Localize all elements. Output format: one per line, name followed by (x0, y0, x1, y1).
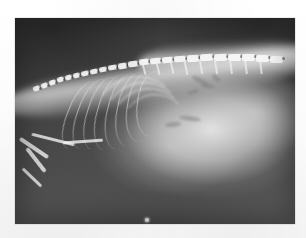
vertebra-body (128, 60, 139, 67)
vertebra-body (56, 76, 64, 83)
vertebra-body (242, 54, 255, 61)
radiograph-dark-field (15, 18, 295, 224)
vertebra-body (32, 85, 40, 92)
film-grain-overlay (15, 18, 295, 224)
spinous-process (141, 63, 146, 75)
vertebra-body (150, 57, 162, 64)
intervertebral-disc-space (71, 76, 74, 79)
intervertebral-disc-space (39, 87, 42, 90)
intervertebral-disc-space (126, 64, 129, 67)
intervertebral-disc-space (106, 68, 109, 71)
intervertebral-disc-space (63, 78, 66, 81)
vertebra-body (108, 64, 118, 70)
vertebra-body (48, 79, 56, 86)
dorsal-body-wall (15, 18, 295, 224)
intervertebral-disc-space (268, 56, 271, 59)
diaphragm-arc (104, 84, 195, 184)
visceral-wisp (187, 88, 200, 96)
intervertebral-disc-space (88, 72, 91, 75)
radiopaque-marker-dot (145, 218, 149, 222)
rib-cage (15, 18, 295, 224)
forelimb-bones (15, 18, 295, 224)
vertebra-body (118, 62, 128, 69)
film-vignette-overlay (15, 18, 295, 224)
diaphragm-arc (95, 77, 194, 185)
spinous-process (184, 61, 189, 75)
rib (87, 70, 144, 155)
vertebra-body (228, 54, 241, 61)
vertebra-body (64, 74, 72, 81)
intervertebral-disc-space (282, 57, 285, 60)
limb-bone (25, 147, 47, 173)
vertebra-body (99, 66, 108, 73)
limb-bone (31, 133, 74, 147)
vertebra-body (90, 68, 99, 75)
intervertebral-disc-space (240, 55, 243, 58)
intervertebral-disc-space (79, 74, 82, 77)
intervertebral-disc-space (148, 60, 151, 63)
rib (98, 69, 155, 154)
spinous-process (214, 60, 218, 74)
intervertebral-disc-space (55, 81, 58, 84)
abdominal-soft-tissue (15, 18, 295, 224)
vertebra-body (214, 54, 227, 61)
intervertebral-disc-space (226, 55, 229, 58)
visceral-wisp (191, 74, 209, 87)
lateral-abdominal-radiograph (15, 18, 295, 224)
spinous-process (155, 62, 160, 75)
limb-bone (19, 137, 49, 159)
intervertebral-disc-space (212, 55, 215, 58)
limb-bone (22, 167, 43, 187)
spinous-process (244, 61, 247, 74)
visceral-wisp (211, 73, 221, 82)
vertebra-body (200, 54, 213, 62)
rib (133, 69, 179, 140)
visceral-gas-wisps (15, 18, 295, 224)
vertebra-body (139, 58, 150, 65)
vertebral-column (15, 18, 295, 224)
rib (110, 69, 164, 151)
intervertebral-disc-space (116, 66, 119, 69)
intervertebral-disc-space (137, 62, 140, 65)
intervertebral-disc-space (97, 70, 100, 73)
rib (76, 72, 133, 155)
intervertebral-disc-space (47, 84, 50, 87)
vertebra-body (187, 55, 199, 63)
vertebra-body (174, 56, 186, 63)
visceral-wisp (165, 121, 181, 128)
vertebra-body (72, 72, 80, 79)
intervertebral-disc-space (172, 58, 175, 61)
intervertebral-disc-space (198, 56, 201, 59)
intervertebral-disc-space (160, 59, 163, 62)
vertebra-body (81, 70, 90, 77)
vertebra-body (270, 56, 283, 63)
rib (121, 68, 172, 146)
visceral-wisp (201, 83, 216, 90)
intervertebral-disc-space (185, 57, 188, 60)
vertebra-body (256, 55, 269, 62)
diaphragm-liver-interface (15, 18, 295, 224)
spinous-process (199, 60, 203, 74)
intervertebral-disc-space (254, 55, 257, 58)
page-canvas (0, 0, 306, 238)
diaphragm-arc (115, 91, 196, 181)
vertebra-body (40, 82, 48, 89)
rib (55, 77, 111, 155)
spinous-process (229, 60, 233, 74)
visceral-wisp (179, 114, 201, 122)
diaphragm-arc (86, 70, 191, 184)
spinous-process (170, 61, 174, 74)
limb-bone (63, 139, 103, 145)
vertebra-body (162, 57, 173, 64)
rib (65, 75, 121, 156)
spinous-process (259, 62, 262, 74)
